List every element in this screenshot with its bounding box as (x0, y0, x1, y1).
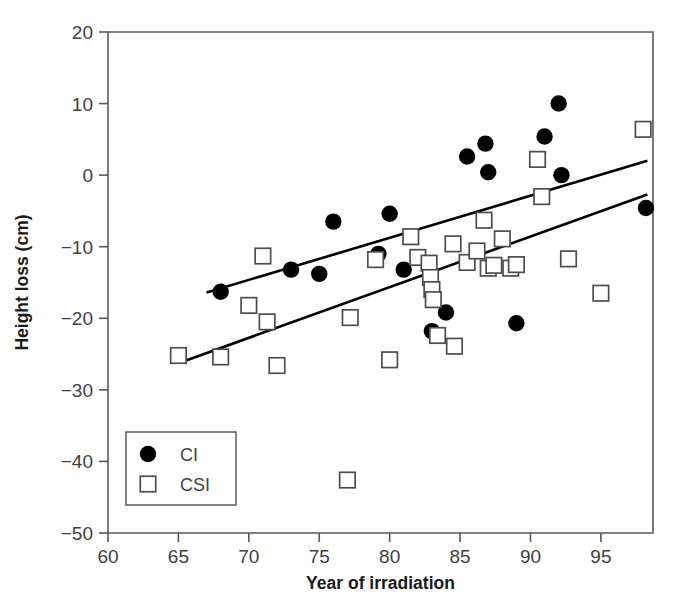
point-csi-28 (534, 189, 550, 205)
point-csi-23 (486, 258, 502, 274)
x-tick-label-0: 60 (97, 546, 118, 567)
x-tick-label-1: 65 (168, 546, 189, 567)
point-ci-9 (459, 148, 475, 164)
point-ci-1 (283, 261, 299, 277)
plot-canvas: 20100−10−20−30−40−506065707580859095 Yea… (0, 0, 679, 610)
y-tick-label-2: 0 (82, 165, 93, 186)
point-csi-18 (447, 338, 463, 354)
point-ci-2 (311, 266, 327, 282)
point-csi-21 (476, 212, 492, 228)
x-tick-label-5: 85 (449, 546, 470, 567)
legend-marker-filled-circle-icon (140, 446, 156, 462)
point-ci-14 (550, 95, 566, 111)
point-csi-9 (382, 352, 398, 368)
point-csi-5 (269, 358, 285, 374)
x-tick-label-2: 70 (238, 546, 259, 567)
point-ci-10 (477, 135, 493, 151)
point-csi-1 (213, 349, 229, 365)
point-csi-7 (342, 310, 358, 326)
scatter-plot-figure: 20100−10−20−30−40−506065707580859095 Yea… (0, 0, 679, 610)
x-tick-label-3: 75 (309, 546, 330, 567)
point-csi-27 (530, 152, 546, 168)
y-tick-label-0: 20 (72, 22, 93, 43)
point-ci-0 (212, 284, 228, 300)
point-ci-16 (638, 200, 654, 216)
point-csi-30 (593, 285, 609, 301)
point-csi-31 (635, 122, 651, 138)
y-tick-label-7: −50 (61, 523, 93, 544)
point-ci-11 (480, 164, 496, 180)
point-ci-5 (381, 206, 397, 222)
legend-marker-open-square-icon (140, 476, 156, 492)
point-csi-26 (509, 257, 525, 273)
legend-label-ci: CI (180, 445, 198, 465)
y-tick-label-5: −30 (61, 380, 93, 401)
y-tick-label-3: −10 (61, 237, 93, 258)
point-ci-3 (325, 213, 341, 229)
x-tick-label-4: 80 (379, 546, 400, 567)
data-points (171, 95, 654, 487)
point-csi-6 (340, 472, 356, 488)
point-csi-10 (403, 229, 419, 245)
point-csi-8 (368, 252, 384, 268)
point-csi-15 (426, 292, 442, 308)
x-tick-label-6: 90 (520, 546, 541, 567)
y-tick-label-4: −20 (61, 308, 93, 329)
point-csi-0 (171, 348, 187, 364)
point-csi-24 (495, 231, 511, 247)
point-ci-13 (536, 128, 552, 144)
point-csi-20 (469, 243, 485, 259)
x-tick-label-7: 95 (590, 546, 611, 567)
y-axis-title: Height loss (cm) (12, 214, 32, 350)
point-csi-4 (259, 314, 275, 330)
point-csi-3 (255, 248, 270, 263)
x-axis-title: Year of irradiation (306, 573, 455, 593)
point-csi-16 (430, 328, 446, 344)
point-ci-12 (508, 315, 524, 331)
y-tick-label-1: 10 (72, 94, 93, 115)
legend-label-csi: CSI (180, 475, 210, 495)
point-ci-15 (553, 167, 569, 183)
point-csi-29 (561, 251, 577, 266)
point-csi-2 (241, 298, 257, 314)
point-csi-12 (421, 255, 437, 271)
y-tick-label-6: −40 (61, 451, 93, 472)
point-csi-17 (445, 236, 461, 252)
legend: CICSI (126, 432, 236, 505)
